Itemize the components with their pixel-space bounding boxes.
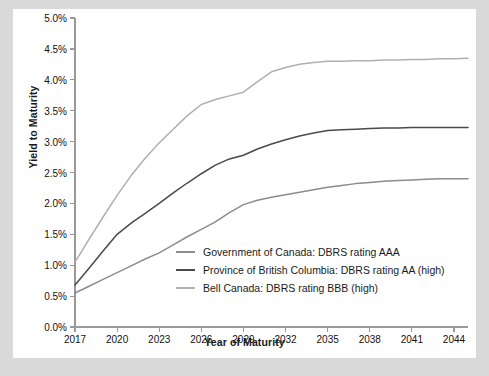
legend-item-bell-canada: Bell Canada: DBRS rating BBB (high) bbox=[176, 279, 445, 297]
legend-label-bell-canada: Bell Canada: DBRS rating BBB (high) bbox=[203, 282, 378, 294]
legend-swatch-government-of-canada bbox=[176, 251, 195, 253]
plot-area bbox=[13, 9, 476, 358]
legend-label-government-of-canada: Government of Canada: DBRS rating AAA bbox=[203, 246, 400, 258]
chart-legend: Government of Canada: DBRS rating AAA Pr… bbox=[176, 243, 445, 297]
series-line bbox=[75, 58, 468, 262]
legend-item-province-of-british-columbia: Province of British Columbia: DBRS ratin… bbox=[176, 261, 445, 279]
legend-swatch-bell-canada bbox=[176, 287, 195, 289]
legend-swatch-province-of-british-columbia bbox=[176, 269, 195, 271]
page-background: Yield to Maturity Year of Maturity 0.0%0… bbox=[0, 0, 489, 376]
yield-curve-chart: Yield to Maturity Year of Maturity 0.0%0… bbox=[13, 9, 476, 358]
legend-item-government-of-canada: Government of Canada: DBRS rating AAA bbox=[176, 243, 445, 261]
chart-card: Yield to Maturity Year of Maturity 0.0%0… bbox=[13, 9, 476, 358]
legend-label-province-of-british-columbia: Province of British Columbia: DBRS ratin… bbox=[203, 264, 445, 276]
